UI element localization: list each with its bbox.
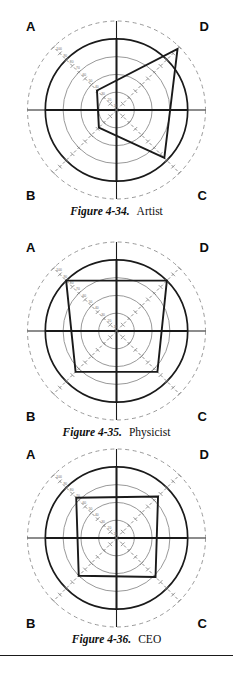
svg-text:10: 10	[114, 532, 118, 536]
svg-text:90: 90	[64, 482, 68, 486]
svg-text:80: 80	[70, 488, 74, 492]
svg-text:20: 20	[108, 526, 112, 530]
axis-label-b: B	[26, 410, 35, 423]
axis-label-c: C	[198, 617, 207, 630]
radar-chart-physicist: 100908070605040302010 A D B C	[0, 235, 233, 425]
svg-text:80: 80	[70, 60, 74, 64]
page-rule	[0, 655, 233, 656]
figure-title: Physicist	[129, 426, 171, 438]
figure-title: Artist	[137, 205, 163, 217]
svg-text:30: 30	[101, 92, 105, 96]
svg-text:30: 30	[101, 520, 105, 524]
svg-text:60: 60	[82, 294, 86, 298]
figure-number: Figure 4-36.	[72, 633, 131, 645]
axis-label-a: A	[26, 448, 35, 461]
radar-svg-artist: 100908070605040302010	[0, 14, 233, 204]
axis-label-d: D	[200, 241, 209, 254]
svg-text:40: 40	[95, 513, 99, 517]
axis-label-b: B	[26, 189, 35, 202]
radar-chart-artist: 100908070605040302010 A D B C	[0, 14, 233, 204]
svg-text:80: 80	[70, 281, 74, 285]
axis-label-c: C	[198, 410, 207, 423]
figure-number: Figure 4-35.	[63, 426, 122, 438]
svg-text:50: 50	[89, 79, 93, 83]
axis-label-d: D	[200, 448, 209, 461]
svg-text:30: 30	[101, 313, 105, 317]
figure-4-36: 100908070605040302010 A D B C Figure 4-3…	[0, 442, 233, 646]
figure-title: CEO	[138, 633, 161, 645]
svg-text:60: 60	[82, 501, 86, 505]
svg-text:90: 90	[64, 275, 68, 279]
svg-text:20: 20	[108, 319, 112, 323]
figure-caption: Figure 4-36.CEO	[0, 633, 233, 646]
figure-4-34: 100908070605040302010 A D B C Figure 4-3…	[0, 14, 233, 218]
radar-chart-ceo: 100908070605040302010 A D B C	[0, 442, 233, 632]
axis-label-d: D	[200, 20, 209, 33]
axis-label-c: C	[198, 189, 207, 202]
svg-text:100: 100	[56, 268, 62, 272]
svg-text:100: 100	[56, 475, 62, 479]
svg-text:40: 40	[95, 85, 99, 89]
axis-label-a: A	[26, 241, 35, 254]
svg-text:50: 50	[89, 507, 93, 511]
radar-svg-ceo: 100908070605040302010	[0, 442, 233, 632]
svg-text:10: 10	[114, 325, 118, 329]
figure-number: Figure 4-34.	[70, 205, 129, 217]
svg-text:70: 70	[76, 287, 80, 291]
axis-label-a: A	[26, 20, 35, 33]
svg-text:60: 60	[82, 73, 86, 77]
svg-text:90: 90	[64, 54, 68, 58]
figure-4-35: 100908070605040302010 A D B C Figure 4-3…	[0, 235, 233, 439]
svg-text:100: 100	[56, 47, 62, 51]
svg-text:20: 20	[108, 98, 112, 102]
svg-text:40: 40	[95, 306, 99, 310]
svg-text:50: 50	[89, 300, 93, 304]
radar-svg-physicist: 100908070605040302010	[0, 235, 233, 425]
figure-page: 100908070605040302010 A D B C Figure 4-3…	[0, 0, 233, 674]
figure-caption: Figure 4-35.Physicist	[0, 426, 233, 439]
svg-text:10: 10	[114, 104, 118, 108]
figure-caption: Figure 4-34.Artist	[0, 205, 233, 218]
axis-label-b: B	[26, 617, 35, 630]
svg-text:70: 70	[76, 66, 80, 70]
